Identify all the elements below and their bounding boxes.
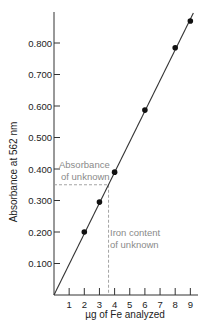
y-tick-label: 0.300 — [28, 195, 52, 206]
x-axis-label: µg of Fe analyzed — [85, 309, 165, 320]
data-point — [172, 45, 178, 51]
y-tick-label: 0.800 — [28, 38, 52, 49]
calibration-chart: 0.1000.2000.3000.4000.5000.6000.7000.800… — [0, 0, 209, 334]
x-ticks: 123456789 — [67, 288, 193, 310]
data-point — [82, 229, 88, 235]
y-tick-label: 0.200 — [28, 227, 52, 238]
y-tick-label: 0.500 — [28, 132, 52, 143]
y-tick-label: 0.400 — [28, 164, 52, 175]
y-axis-label: Absorbance at 562 nm — [8, 122, 19, 223]
data-point — [97, 199, 103, 205]
absorbance-annotation-line1: Absorbance — [59, 159, 110, 170]
y-tick-label: 0.600 — [28, 101, 52, 112]
y-ticks: 0.1000.2000.3000.4000.5000.6000.7000.800 — [28, 38, 60, 270]
y-tick-label: 0.100 — [28, 258, 52, 269]
iron-annotation-line2: of unknown — [110, 239, 159, 250]
y-tick-label: 0.700 — [28, 69, 52, 80]
data-point — [112, 169, 118, 175]
x-tick-label: 9 — [188, 299, 193, 310]
iron-annotation-line1: Iron content — [110, 227, 161, 238]
x-tick-label: 1 — [67, 299, 72, 310]
data-point — [142, 107, 148, 113]
x-tick-label: 8 — [173, 299, 178, 310]
data-point — [188, 18, 194, 24]
best-fit-line — [54, 13, 193, 295]
absorbance-annotation-line2: of unknown — [61, 171, 110, 182]
